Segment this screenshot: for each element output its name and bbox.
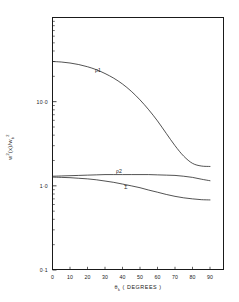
x-tick-label: 30 [102,274,108,280]
y-tick-label: 10·0 [22,99,48,105]
y-axis-w-denom: w [7,139,13,143]
x-tick-label: 10 [67,274,73,280]
curve-label-Σ: Σ [124,184,127,190]
y-axis-sub-denom: b [10,137,15,140]
y-axis-w-numer: w [7,156,13,160]
y-axis-arg: (x)/ [7,144,13,153]
y-axis-title: w2(x)/wb2 [5,117,15,177]
x-tick-label: 40 [119,274,125,280]
x-tick-label: 0 [51,274,54,280]
y-axis-exp-numer: 2 [5,153,10,156]
x-tick-label: 90 [207,274,213,280]
plot-frame [52,17,224,270]
x-tick-label: 50 [137,274,143,280]
x-tick-label: 60 [154,274,160,280]
x-tick-label: 70 [172,274,178,280]
x-tick-label: 80 [189,274,195,280]
y-axis-exp-denom: 2 [5,134,10,137]
x-axis-title-subscript: k [118,287,121,292]
x-tick-label: 20 [84,274,90,280]
curve-label-ρ1: ρ1 [95,67,101,73]
x-axis-title: θk ( DEGREES ) [52,284,224,292]
y-tick-label: 0·1 [22,267,48,273]
y-tick-label: 1·0 [22,183,48,189]
x-axis-title-unit: ( DEGREES ) [123,284,162,290]
curve-label-ρ2: ρ2 [116,168,122,174]
figure: 0·11·010·0 0102030405060708090 ρ1ρ2Σ θk … [0,0,239,302]
